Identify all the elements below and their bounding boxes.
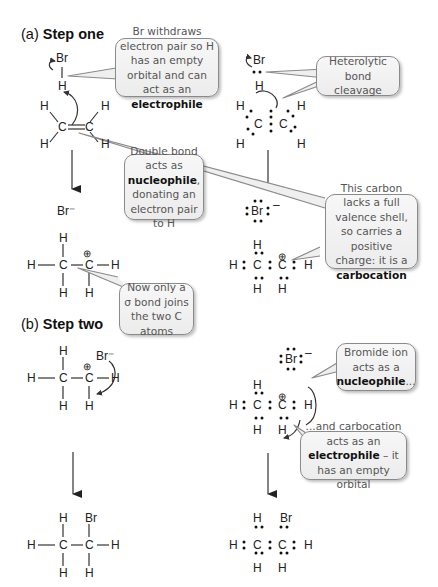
callout-carbocation: This carbon lacks a full valence shell, … xyxy=(325,194,418,269)
callout-text: ...and carbocation acts as an electrophi… xyxy=(305,419,402,492)
atom-h: H xyxy=(101,138,110,150)
bromide-ion: Br⁻ xyxy=(57,205,75,217)
atom-h: H xyxy=(253,283,262,295)
callout-text-bold: carbocation xyxy=(336,269,406,281)
atom-br: Br xyxy=(280,512,292,524)
atom-h: H xyxy=(253,562,262,574)
callout-bromide-nucleophile: Bromide ion acts as a nucleophile... xyxy=(336,343,416,391)
atom-c: C xyxy=(278,399,287,411)
atom-c: C xyxy=(253,259,262,271)
atom-h: H xyxy=(58,80,67,92)
atom-h: H xyxy=(85,400,94,412)
atom-h: H xyxy=(278,424,287,436)
callout-text: Br withdraws electron pair so H has an e… xyxy=(120,24,214,111)
atom-br: Br xyxy=(56,52,68,64)
bromide-ion-lewis: Br xyxy=(285,353,297,365)
atom-h: H xyxy=(59,512,68,524)
atom-c: C xyxy=(85,121,94,133)
atom-h: H xyxy=(255,80,264,92)
atom-c: C xyxy=(254,118,263,130)
atom-c: C xyxy=(59,259,68,271)
bromide-ion: Br⁻ xyxy=(96,350,114,362)
atom-h: H xyxy=(59,287,68,299)
atom-h: H xyxy=(297,100,306,112)
atom-h: H xyxy=(40,138,49,150)
atom-c: C xyxy=(58,121,67,133)
negative-charge: – xyxy=(273,199,280,211)
atom-h: H xyxy=(85,567,94,579)
callout-text-bold: nucleophile xyxy=(336,375,405,387)
atom-h: H xyxy=(85,287,94,299)
atom-br: Br xyxy=(253,54,265,66)
atom-h: H xyxy=(304,259,313,271)
atom-h: H xyxy=(304,399,313,411)
atom-h: H xyxy=(27,539,36,551)
atom-h: H xyxy=(236,100,245,112)
callout-electrophile-hbr: Br withdraws electron pair so H has an e… xyxy=(115,38,219,97)
atom-br: Br xyxy=(85,512,97,524)
atom-c: C xyxy=(85,539,94,551)
atom-c: C xyxy=(59,539,68,551)
atom-h: H xyxy=(27,372,36,384)
callout-text-pre: Bromide ion acts as a xyxy=(344,346,408,373)
atom-h: H xyxy=(278,283,287,295)
atom-h: H xyxy=(111,259,120,271)
callout-text-pre: ...and carbocation acts as an xyxy=(306,420,402,447)
negative-charge: – xyxy=(305,347,312,359)
bromide-ion-lewis: Br xyxy=(251,205,263,217)
callout-text-pre: Double bond acts as xyxy=(130,145,198,172)
atom-c: C xyxy=(253,539,262,551)
atom-h: H xyxy=(253,512,262,524)
atom-h: H xyxy=(27,259,36,271)
atom-h: H xyxy=(111,539,120,551)
callout-sigma-bond: Now only a σ bond joins the two C atoms xyxy=(119,283,194,335)
callout-double-bond-nucleophile: Double bond acts as nucleophile, donatin… xyxy=(124,154,204,220)
callout-text: Now only a σ bond joins the two C atoms xyxy=(124,280,189,338)
callout-text-pre: Br withdraws electron pair so H has an e… xyxy=(120,25,214,95)
callout-text-pre: This carbon lacks a full valence shell, … xyxy=(335,182,408,267)
atom-c: C xyxy=(253,399,262,411)
atom-h: H xyxy=(304,539,313,551)
reaction-mechanism-diagram: (a) Step one (b) Step two xyxy=(0,0,438,587)
atom-h: H xyxy=(229,399,238,411)
atom-h: H xyxy=(253,424,262,436)
atom-h: H xyxy=(101,100,110,112)
callout-text-bold: electrophile xyxy=(308,449,379,461)
atom-c: C xyxy=(85,372,94,384)
atom-h: H xyxy=(236,138,245,150)
atom-h: H xyxy=(59,345,68,357)
atom-c: C xyxy=(278,539,287,551)
callout-heterolytic-cleavage: Heterolytic bond cleavage xyxy=(316,56,400,96)
atom-c: C xyxy=(278,259,287,271)
atom-h: H xyxy=(229,539,238,551)
callout-text-bold: electrophile xyxy=(131,98,202,110)
callout-text-bold: nucleophile xyxy=(128,174,197,186)
atom-h: H xyxy=(40,100,49,112)
atom-h: H xyxy=(229,259,238,271)
atom-h: H xyxy=(278,562,287,574)
callout-text: Heterolytic bond cleavage xyxy=(321,54,395,98)
atom-h: H xyxy=(253,239,262,251)
callout-text-post: ... xyxy=(405,375,415,387)
atom-c: C xyxy=(279,118,288,130)
callout-text: Double bond acts as nucleophile, donatin… xyxy=(128,144,200,231)
atom-h: H xyxy=(111,372,120,384)
callout-text: This carbon lacks a full valence shell, … xyxy=(330,181,413,283)
atom-h: H xyxy=(59,567,68,579)
atom-h: H xyxy=(297,138,306,150)
atom-h: H xyxy=(253,379,262,391)
atom-h: H xyxy=(59,232,68,244)
callout-text: Bromide ion acts as a nucleophile... xyxy=(336,345,415,389)
atom-c: C xyxy=(59,372,68,384)
atom-h: H xyxy=(59,400,68,412)
callout-carbocation-electrophile: ...and carbocation acts as an electrophi… xyxy=(300,431,407,480)
atom-c: C xyxy=(85,259,94,271)
